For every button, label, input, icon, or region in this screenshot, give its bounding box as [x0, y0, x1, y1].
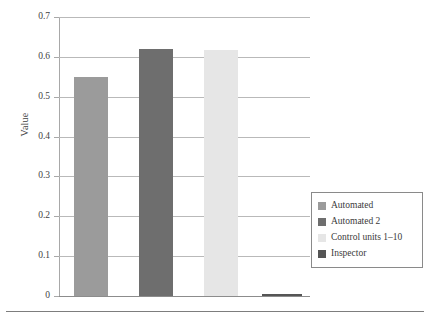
bar-4 — [262, 294, 302, 296]
chart-legend: AutomatedAutomated 2Control units 1–10In… — [311, 192, 423, 268]
legend-swatch-icon — [318, 234, 326, 242]
legend-item-2[interactable]: Automated 2 — [318, 214, 417, 230]
y-tick-label-0.3: 0.3 — [6, 171, 50, 181]
legend-item-label: Automated — [331, 201, 373, 211]
plot-area — [59, 17, 310, 296]
footer-divider — [6, 311, 424, 312]
bar-chart-figure: 0.70.60.50.40.30.20.10 Value AutomatedAu… — [0, 0, 430, 321]
bar-3 — [204, 50, 238, 296]
legend-swatch-icon — [318, 250, 326, 258]
legend-item-4[interactable]: Inspector — [318, 246, 417, 262]
bar-2 — [139, 49, 173, 296]
gridline-0 — [59, 296, 310, 297]
y-axis-title: Value — [19, 95, 30, 155]
bar-1 — [74, 77, 108, 296]
y-tick-label-0.1: 0.1 — [6, 251, 50, 261]
legend-swatch-icon — [318, 218, 326, 226]
y-tick-label-0.7: 0.7 — [6, 12, 50, 22]
gridline-0.6 — [59, 57, 310, 58]
gridline-0.7 — [59, 17, 310, 18]
legend-item-label: Control units 1–10 — [331, 233, 402, 243]
legend-item-label: Automated 2 — [331, 217, 380, 227]
legend-item-3[interactable]: Control units 1–10 — [318, 230, 417, 246]
y-tick-label-0.2: 0.2 — [6, 211, 50, 221]
legend-swatch-icon — [318, 202, 326, 210]
y-tick-label-0: 0 — [6, 291, 50, 301]
legend-item-1[interactable]: Automated — [318, 198, 417, 214]
y-tick-label-0.6: 0.6 — [6, 52, 50, 62]
legend-item-label: Inspector — [331, 249, 366, 259]
